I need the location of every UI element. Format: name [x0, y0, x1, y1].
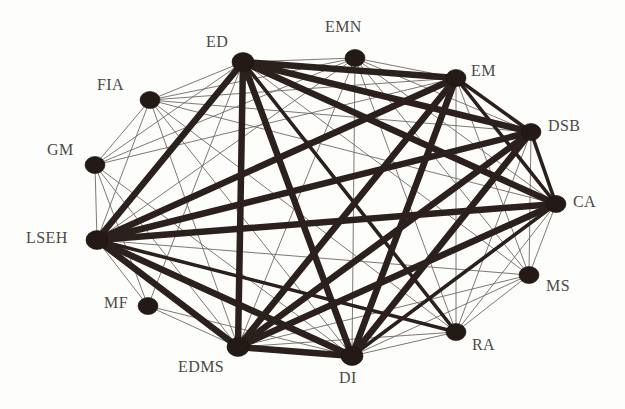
node-lseh[interactable] [86, 231, 108, 250]
node-gm[interactable] [85, 156, 105, 173]
node-em[interactable] [446, 69, 466, 86]
node-label-di: DI [339, 369, 357, 387]
edge-layer [95, 58, 556, 356]
node-ca[interactable] [546, 195, 566, 212]
node-label-ed: ED [206, 33, 228, 51]
node-edms[interactable] [227, 338, 249, 357]
node-label-em: EM [471, 62, 496, 80]
node-label-gm: GM [47, 141, 74, 159]
node-label-ca: CA [573, 193, 596, 211]
node-label-ra: RA [472, 336, 495, 354]
node-label-ms: MS [546, 277, 570, 295]
network-svg [0, 0, 625, 409]
node-mf[interactable] [138, 297, 158, 314]
node-label-lseh: LSEH [26, 229, 68, 247]
node-fia[interactable] [140, 91, 160, 108]
node-ed[interactable] [232, 53, 254, 72]
network-diagram: EDEMNEMDSBCAMSRADIEDMSMFLSEHGMFIA [0, 0, 625, 409]
node-label-fia: FIA [97, 76, 124, 94]
node-emn[interactable] [345, 49, 365, 66]
node-label-mf: MF [104, 294, 128, 312]
edge-LSEH-GM [95, 165, 97, 240]
node-ms[interactable] [519, 266, 539, 283]
node-label-dsb: DSB [548, 117, 580, 135]
node-label-emn: EMN [325, 18, 362, 36]
node-di[interactable] [341, 347, 363, 366]
node-dsb[interactable] [521, 123, 541, 140]
node-ra[interactable] [446, 323, 466, 340]
node-label-edms: EDMS [178, 358, 224, 376]
